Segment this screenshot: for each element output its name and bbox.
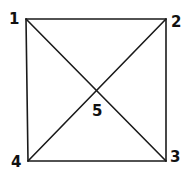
node-label-3: 3 <box>170 148 180 166</box>
node-label-4: 4 <box>11 153 21 171</box>
edge-4-1 <box>26 19 28 161</box>
node-label-5: 5 <box>92 102 102 120</box>
node-label-2: 2 <box>171 13 181 31</box>
node-label-1: 1 <box>9 10 19 28</box>
square-diagonals-diagram: 1 2 3 4 5 <box>0 0 190 173</box>
